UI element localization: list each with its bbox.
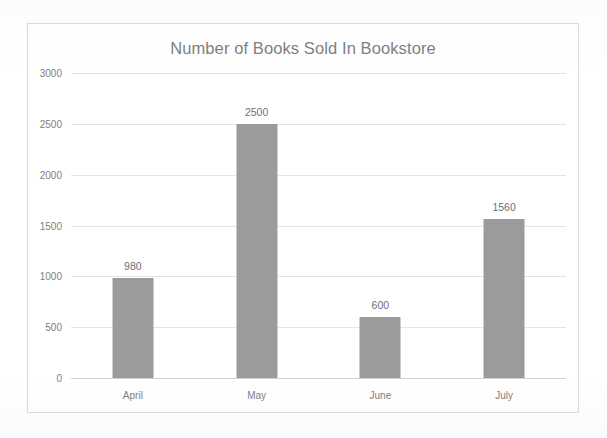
y-tick-label: 500 — [45, 322, 62, 333]
bar-series: 980April2500May600June1560July — [71, 73, 566, 378]
bar-july[interactable] — [484, 219, 525, 378]
x-axis-label-july: July — [495, 390, 513, 401]
x-axis-label-april: April — [123, 390, 143, 401]
bar-april[interactable] — [112, 278, 153, 378]
y-tick-label: 1000 — [40, 271, 62, 282]
x-axis-label-may: May — [247, 390, 266, 401]
bar-june[interactable] — [360, 317, 401, 378]
y-tick-label: 2000 — [40, 169, 62, 180]
y-tick-label: 2500 — [40, 118, 62, 129]
bar-value-label-july: 1560 — [492, 201, 515, 213]
bar-group-july: 1560July — [442, 73, 566, 378]
plot-area: 300025002000150010005000 980April2500May… — [71, 73, 566, 378]
bar-value-label-may: 2500 — [245, 106, 268, 118]
bar-value-label-april: 980 — [124, 260, 142, 272]
bar-group-june: 600June — [319, 73, 443, 378]
bar-group-may: 2500May — [195, 73, 319, 378]
y-tick-label: 3000 — [40, 68, 62, 79]
x-axis-label-june: June — [370, 390, 392, 401]
y-tick-label: 1500 — [40, 220, 62, 231]
bar-group-april: 980April — [71, 73, 195, 378]
bar-may[interactable] — [236, 124, 277, 378]
bar-value-label-june: 600 — [372, 299, 390, 311]
chart-frame: Number of Books Sold In Bookstore 300025… — [27, 23, 579, 413]
y-tick-label: 0 — [56, 373, 62, 384]
gridline-0 — [71, 378, 566, 379]
chart-title: Number of Books Sold In Bookstore — [28, 39, 578, 58]
